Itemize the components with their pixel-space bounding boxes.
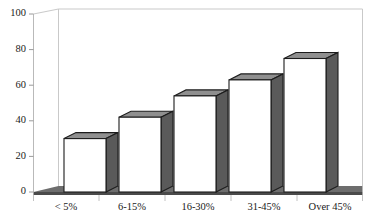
chart-canvas: 100 80 60 40 20 0 bbox=[0, 0, 372, 221]
bar-side-face-2 bbox=[161, 111, 173, 192]
y-axis: 100 80 60 40 20 0 bbox=[10, 7, 33, 196]
bar-front-face-4 bbox=[229, 80, 271, 192]
y-tick-group bbox=[29, 14, 34, 192]
x-tick-label-over-45: Over 45% bbox=[309, 201, 352, 212]
x-tick-group bbox=[34, 195, 363, 201]
bar-group-6-15 bbox=[119, 111, 173, 192]
bar-front-face-2 bbox=[119, 117, 161, 192]
x-axis: < 5% 6-15% 16-30% 31-45% Over 45% bbox=[34, 195, 363, 212]
y-tick-label-0: 0 bbox=[21, 185, 26, 196]
bar-chart-figure: 100 80 60 40 20 0 bbox=[0, 0, 372, 221]
bar-group-31-45 bbox=[229, 74, 283, 192]
bar-group-under-5 bbox=[64, 133, 118, 192]
bar-side-face-5 bbox=[326, 53, 338, 193]
bar-group-16-30 bbox=[174, 90, 228, 192]
bar-side-face-3 bbox=[216, 90, 228, 192]
y-tick-label-80: 80 bbox=[16, 43, 27, 54]
x-tick-label-6-15: 6-15% bbox=[118, 201, 146, 212]
bar-side-face-1 bbox=[106, 133, 118, 192]
depth-edge-top-left bbox=[34, 9, 59, 14]
y-tick-label-40: 40 bbox=[16, 114, 27, 125]
x-tick-label-31-45: 31-45% bbox=[247, 201, 280, 212]
y-tick-label-20: 20 bbox=[16, 150, 27, 161]
bar-group-over-45 bbox=[284, 53, 338, 193]
y-tick-label-100: 100 bbox=[10, 7, 26, 18]
x-tick-label-16-30: 16-30% bbox=[181, 201, 214, 212]
y-tick-label-60: 60 bbox=[16, 79, 27, 90]
x-tick-label-under-5: < 5% bbox=[55, 201, 78, 212]
bar-side-face-4 bbox=[271, 74, 283, 192]
bar-front-face-3 bbox=[174, 96, 216, 192]
bar-front-face-1 bbox=[64, 139, 106, 192]
bar-front-face-5 bbox=[284, 59, 326, 193]
